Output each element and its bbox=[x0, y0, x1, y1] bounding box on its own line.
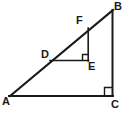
vertex-label-a: A bbox=[2, 96, 10, 107]
vertex-label-d: D bbox=[41, 49, 49, 60]
vertex-label-c: C bbox=[111, 99, 119, 110]
vertex-label-e: E bbox=[88, 61, 95, 72]
vertex-label-f: F bbox=[76, 15, 83, 26]
geometry-diagram-svg bbox=[0, 0, 127, 114]
right-angle-mark-c bbox=[105, 88, 113, 96]
segment-ab bbox=[10, 10, 113, 96]
geometry-figure: A B C D E F bbox=[0, 0, 127, 114]
vertex-label-b: B bbox=[114, 1, 122, 12]
